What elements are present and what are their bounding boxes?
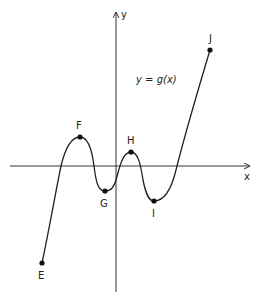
point-f: [77, 134, 82, 139]
graph-canvas: x y y = g(x) E F G H I J: [0, 0, 256, 303]
point-j: [207, 47, 212, 52]
label-h: H: [127, 135, 135, 146]
point-h: [128, 149, 133, 154]
label-e: E: [38, 270, 44, 281]
y-axis-label: y: [121, 9, 127, 20]
point-e: [39, 260, 44, 265]
equation-label: y = g(x): [135, 74, 177, 85]
point-i: [151, 198, 156, 203]
x-axis-label: x: [244, 171, 250, 182]
function-curve: [42, 50, 210, 263]
label-f: F: [76, 120, 82, 131]
label-i: I: [152, 208, 155, 219]
label-g: G: [100, 198, 108, 209]
point-g: [102, 188, 107, 193]
label-j: J: [208, 33, 212, 44]
